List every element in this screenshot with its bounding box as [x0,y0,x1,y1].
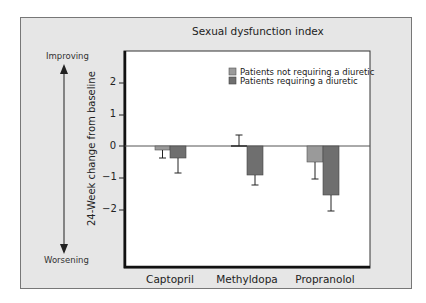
plot-area [0,0,426,303]
category-captopril: Captopril [140,273,200,285]
category-propranolol: Propranolol [290,273,360,285]
category-methyldopa: Methyldopa [212,273,282,285]
legend-swatch-no-diuretic [229,68,236,75]
legend-swatch-diuretic [229,77,236,84]
legend-item-diuretic: Patients requiring a diuretic [240,76,358,86]
